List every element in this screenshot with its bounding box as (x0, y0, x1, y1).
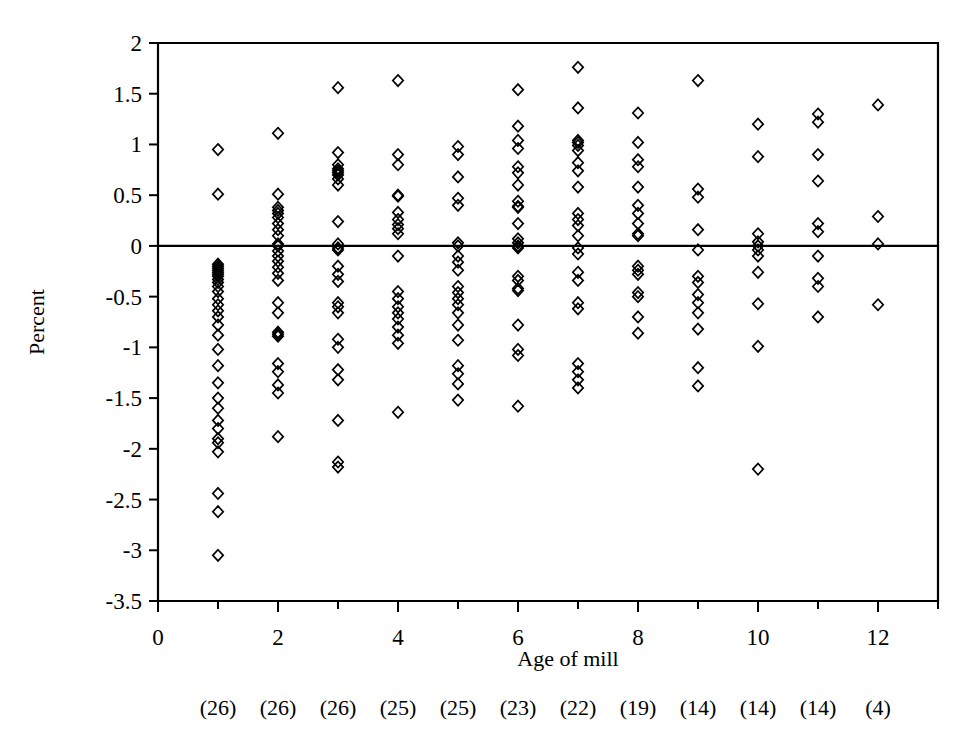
data-point-marker (573, 374, 583, 385)
data-points (213, 62, 883, 561)
x-tick-label: 8 (632, 625, 644, 650)
data-point-marker (633, 311, 643, 322)
data-point-marker (753, 341, 763, 352)
data-point-marker (453, 149, 463, 160)
data-point-marker (453, 307, 463, 318)
x-axis-title: Age of mill (517, 646, 618, 671)
sample-size-label: (22) (560, 695, 597, 720)
data-point-marker (693, 380, 703, 391)
data-point-marker (213, 344, 223, 355)
scatter-plot-figure: 21.510.50-0.5-1-1.5-2-2.5-3-3.5 02468101… (0, 0, 977, 744)
data-point-marker (273, 387, 283, 398)
data-point-marker (753, 267, 763, 278)
data-point-marker (273, 358, 283, 369)
data-point-marker (333, 334, 343, 345)
data-point-marker (873, 211, 883, 222)
data-point-marker (813, 281, 823, 292)
data-point-marker (213, 550, 223, 561)
data-point-marker (753, 464, 763, 475)
data-point-marker (693, 289, 703, 300)
data-point-marker (333, 216, 343, 227)
data-point-marker (693, 183, 703, 194)
sample-size-labels: (26)(26)(26)(25)(25)(23)(22)(19)(14)(14)… (200, 695, 891, 720)
data-point-marker (813, 108, 823, 119)
data-point-marker (393, 407, 403, 418)
data-point-marker (333, 82, 343, 93)
data-point-marker (573, 382, 583, 393)
data-point-marker (393, 338, 403, 349)
x-tick-label: 2 (272, 625, 284, 650)
data-point-marker (633, 261, 643, 272)
data-point-marker (393, 321, 403, 332)
sample-size-label: (26) (260, 695, 297, 720)
data-point-marker (813, 175, 823, 186)
data-point-marker (873, 238, 883, 249)
y-tick-label: -2.5 (106, 488, 142, 513)
data-point-marker (693, 224, 703, 235)
data-point-marker (453, 319, 463, 330)
y-tick-label: 0 (131, 234, 143, 259)
data-point-marker (873, 99, 883, 110)
data-point-marker (633, 269, 643, 280)
y-axis-ticks (149, 43, 158, 601)
data-point-marker (573, 157, 583, 168)
data-point-marker (633, 265, 643, 276)
data-point-marker (633, 161, 643, 172)
data-point-marker (573, 165, 583, 176)
data-point-marker (513, 135, 523, 146)
sample-size-label: (14) (800, 695, 837, 720)
data-point-marker (813, 117, 823, 128)
data-point-marker (573, 366, 583, 377)
x-tick-label: 12 (867, 625, 890, 650)
y-tick-label: 0.5 (113, 183, 142, 208)
data-point-marker (513, 401, 523, 412)
data-point-marker (633, 107, 643, 118)
data-point-marker (513, 319, 523, 330)
data-point-marker (333, 342, 343, 353)
data-point-marker (273, 366, 283, 377)
sample-size-label: (26) (320, 695, 357, 720)
data-point-marker (213, 488, 223, 499)
data-point-marker (213, 415, 223, 426)
data-point-marker (813, 250, 823, 261)
sample-size-label: (14) (740, 695, 777, 720)
data-point-marker (453, 200, 463, 211)
y-tick-label: -2 (123, 437, 142, 462)
data-point-marker (273, 379, 283, 390)
data-point-marker (633, 291, 643, 302)
sample-size-label: (19) (620, 695, 657, 720)
x-tick-label: 4 (392, 625, 404, 650)
data-point-marker (393, 75, 403, 86)
y-tick-label: 1.5 (113, 82, 142, 107)
data-point-marker (453, 141, 463, 152)
data-point-marker (453, 265, 463, 276)
data-point-marker (573, 102, 583, 113)
data-point-marker (813, 273, 823, 284)
data-point-marker (333, 276, 343, 287)
data-point-marker (273, 128, 283, 139)
data-point-marker (633, 181, 643, 192)
data-point-marker (573, 267, 583, 278)
data-point-marker (753, 298, 763, 309)
data-point-marker (333, 261, 343, 272)
y-tick-label: 2 (131, 31, 143, 56)
chart-canvas: 21.510.50-0.5-1-1.5-2-2.5-3-3.5 02468101… (0, 0, 977, 744)
sample-size-label: (4) (865, 695, 891, 720)
sample-size-label: (25) (380, 695, 417, 720)
data-point-marker (213, 189, 223, 200)
data-point-marker (393, 293, 403, 304)
data-point-marker (513, 84, 523, 95)
x-tick-label: 0 (152, 625, 164, 650)
data-point-marker (813, 218, 823, 229)
y-tick-label: -1.5 (106, 386, 142, 411)
data-point-marker (693, 75, 703, 86)
y-tick-label: -1 (123, 335, 142, 360)
data-point-marker (873, 299, 883, 310)
y-tick-label: -0.5 (106, 285, 142, 310)
data-point-marker (573, 181, 583, 192)
data-point-marker (453, 171, 463, 182)
data-point-marker (453, 335, 463, 346)
data-point-marker (633, 328, 643, 339)
data-point-marker (753, 228, 763, 239)
sample-size-label: (26) (200, 695, 237, 720)
